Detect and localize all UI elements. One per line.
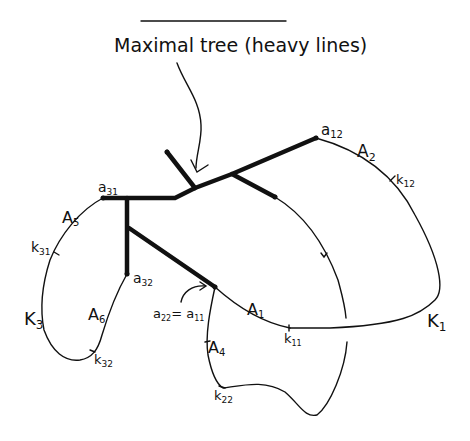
curve-inner-arc xyxy=(275,197,346,318)
svg-text:K1: K1 xyxy=(427,310,446,334)
vertex-a32 xyxy=(125,272,130,277)
svg-text:k22: k22 xyxy=(214,388,233,405)
pointer-arrow xyxy=(177,63,201,168)
svg-text:a32: a32 xyxy=(133,270,153,288)
svg-text:A1: A1 xyxy=(247,300,264,320)
vertex-a12 xyxy=(314,136,319,141)
tick-k12 xyxy=(390,176,395,181)
svg-text:k32: k32 xyxy=(94,352,113,369)
vertex-stub xyxy=(165,150,170,155)
svg-text:K3: K3 xyxy=(24,308,43,332)
curve-A2-K1 xyxy=(290,138,440,328)
svg-text:k11: k11 xyxy=(284,331,302,348)
svg-text:A4: A4 xyxy=(208,338,225,358)
svg-text:A2: A2 xyxy=(357,141,376,164)
tick-k31 xyxy=(54,252,59,255)
vertex-a31 xyxy=(101,196,106,201)
svg-text:k31: k31 xyxy=(31,239,51,257)
labels: a12 A2 k12 a31 A5 k31 a32 K3 A6 k32 a22=… xyxy=(24,121,446,405)
curve-A5-K3-A6 xyxy=(42,198,127,360)
vertex-right-branch xyxy=(273,195,278,200)
tree-stub-branch xyxy=(167,152,195,188)
svg-text:a22= a11: a22= a11 xyxy=(153,306,204,323)
title: Maximal tree (heavy lines) xyxy=(114,34,367,56)
maximal-tree-diagram: Maximal tree (heavy lines) a12 A2 xyxy=(0,0,470,441)
tree-main-branch xyxy=(103,138,316,198)
svg-text:A5: A5 xyxy=(62,208,79,228)
tick-inner-arc xyxy=(321,253,327,257)
svg-text:A6: A6 xyxy=(88,305,105,325)
vertex-a11 xyxy=(213,285,218,290)
tree-right-branch xyxy=(232,174,275,197)
arrow-head xyxy=(191,160,208,172)
svg-text:a31: a31 xyxy=(98,179,118,197)
svg-text:a12: a12 xyxy=(321,121,343,140)
maximal-tree xyxy=(103,138,316,287)
svg-text:k12: k12 xyxy=(396,172,415,189)
